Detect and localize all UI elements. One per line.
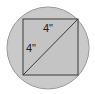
- left-side-label: 4": [26, 42, 36, 54]
- top-side-label: 4": [43, 22, 53, 34]
- inscribed-square-diagram: 4" 4": [0, 0, 95, 94]
